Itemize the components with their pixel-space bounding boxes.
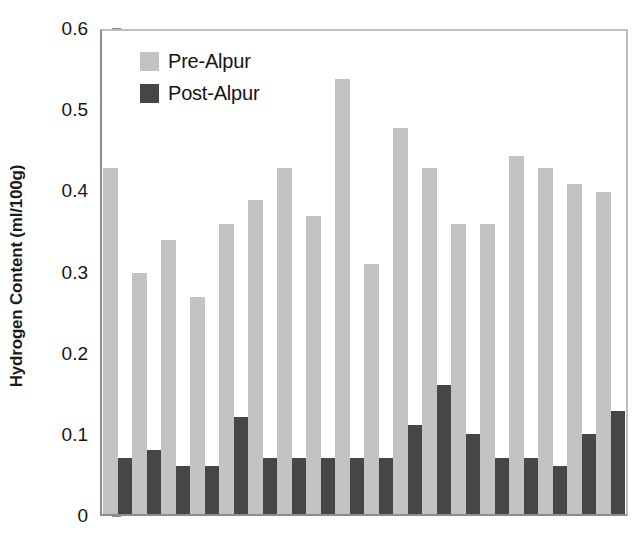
bar-pre-alpur [538,168,553,514]
bar-group [596,31,625,514]
bar-pre-alpur [364,264,379,514]
bar-pre-alpur [132,273,147,515]
legend-swatch-icon [140,84,159,103]
y-axis-tick-label: 0.5 [32,99,88,121]
bar-post-alpur [205,466,220,514]
bar-post-alpur [176,466,191,514]
bar-post-alpur [379,458,394,514]
bar-group [335,31,364,514]
bar-pre-alpur [422,168,437,514]
y-axis-tick-label: 0.6 [32,18,88,40]
bar-post-alpur [437,385,452,514]
y-axis-tick-label: 0.1 [32,424,88,446]
bar-group [509,31,538,514]
bar-pre-alpur [306,216,321,514]
bar-post-alpur [495,458,510,514]
bar-chart-figure: Hydrogen Content (ml/100g) 00.10.20.30.4… [0,0,638,552]
legend-label: Post-Alpur [168,82,259,105]
bar-post-alpur [321,458,336,514]
bar-post-alpur [466,434,481,514]
bar-group [567,31,596,514]
bar-group [480,31,509,514]
y-axis-tick-label: 0 [32,505,88,527]
bar-group [277,31,306,514]
bar-group [451,31,480,514]
bar-group [103,31,132,514]
bar-post-alpur [611,411,626,514]
legend-swatch-icon [140,52,159,71]
bar-pre-alpur [277,168,292,514]
bar-post-alpur [147,450,162,514]
bar-group [422,31,451,514]
bar-post-alpur [553,466,568,514]
bar-post-alpur [350,458,365,514]
bar-pre-alpur [509,156,524,514]
legend: Pre-AlpurPost-Alpur [140,50,259,105]
y-axis-tick-label: 0.2 [32,343,88,365]
bar-pre-alpur [161,240,176,514]
bar-post-alpur [234,417,249,514]
bar-pre-alpur [480,224,495,514]
bar-post-alpur [292,458,307,514]
legend-item-pre: Pre-Alpur [140,50,259,73]
bar-post-alpur [582,434,597,514]
bar-pre-alpur [335,79,350,514]
y-axis-tick-label: 0.4 [32,180,88,202]
bar-post-alpur [408,425,423,514]
bar-post-alpur [263,458,278,514]
y-axis-tick-label: 0.3 [32,262,88,284]
bar-pre-alpur [393,128,408,514]
bar-pre-alpur [248,200,263,514]
bar-group [393,31,422,514]
bar-pre-alpur [567,184,582,514]
legend-item-post: Post-Alpur [140,82,259,105]
legend-label: Pre-Alpur [168,50,251,73]
bar-pre-alpur [219,224,234,514]
bar-pre-alpur [596,192,611,514]
bar-pre-alpur [103,168,118,514]
bar-post-alpur [118,458,133,514]
bar-group [306,31,335,514]
y-axis-tick-layer: 00.10.20.30.40.50.6 [22,0,88,552]
bar-group [364,31,393,514]
bar-pre-alpur [190,297,205,514]
bar-group [538,31,567,514]
bar-pre-alpur [451,224,466,514]
bar-post-alpur [524,458,539,514]
